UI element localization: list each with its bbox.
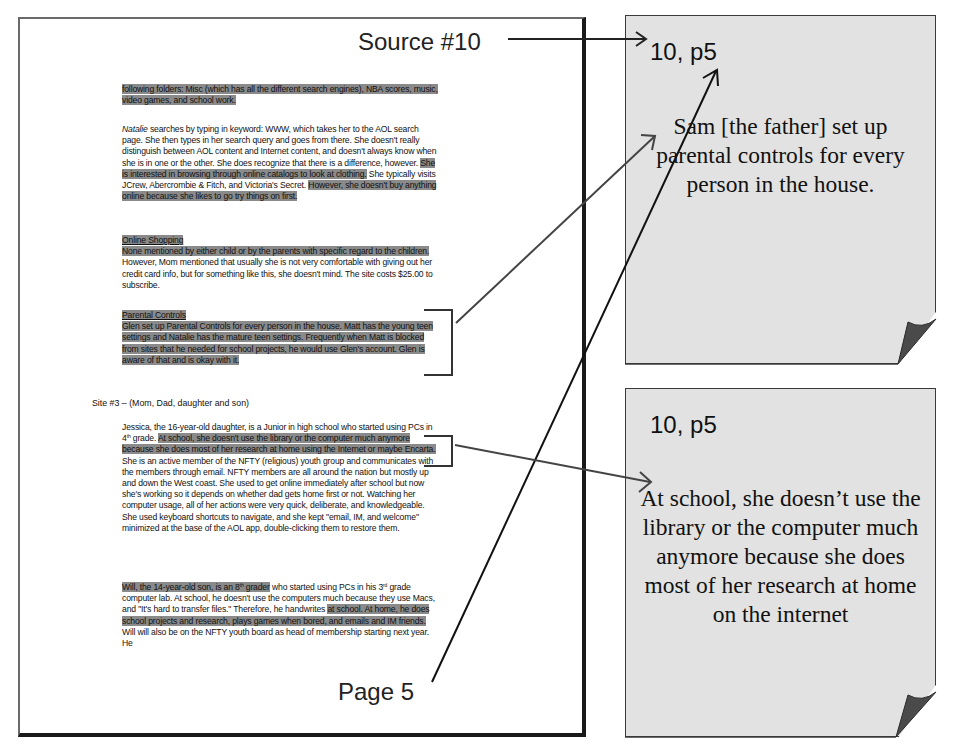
heading-online-shopping: Online Shopping [122, 235, 183, 245]
will-text-1: who started using PCs in his 3 [270, 582, 383, 592]
site-3-heading: Site #3 – (Mom, Dad, daughter and son) [92, 398, 249, 408]
heading-parental-controls: Parental Controls [122, 310, 186, 320]
page-label: Page 5 [338, 678, 414, 706]
doc-section-online-shopping: Online Shopping None mentioned by either… [122, 235, 440, 291]
doc-paragraph-jessica: Jessica, the 16-year-old daughter, is a … [122, 422, 440, 534]
sticky-note-school-research: 10, p5 At school, she doesn’t use the li… [625, 388, 936, 737]
doc-paragraph-will: Will, the 14-year-old son, is an 8th gra… [122, 582, 440, 649]
highlight-school-library: At school, she doesn't use the library o… [122, 433, 436, 454]
natalie-text-1: searches by typing in keyword: WWW, whic… [122, 124, 436, 168]
highlight-folders: following folders: Misc (which has all t… [122, 84, 438, 105]
doc-paragraph-folders: following folders: Misc (which has all t… [122, 84, 440, 106]
note-quote: Sam [the father] set up parental control… [636, 112, 925, 199]
sticky-note-parental-controls: 10, p5 Sam [the father] set up parental … [625, 15, 936, 364]
jessica-text-3: She is an active member of the NFTY (rel… [122, 456, 433, 533]
natalie-name: Natalie [122, 124, 148, 134]
will-text-3: Will will also be on the NFTY youth boar… [122, 627, 429, 648]
highlight-parental-controls: Glen set up Parental Controls for every … [122, 321, 433, 365]
jessica-text-2: grade. [131, 433, 158, 443]
will-hl-text-b: grader [244, 582, 270, 592]
highlight-will-intro: Will, the 14-year-old son, is an 8th gra… [122, 582, 270, 592]
doc-section-parental-controls: Parental Controls Glen set up Parental C… [122, 310, 440, 366]
highlight-none-mentioned: None mentioned by either child or by the… [122, 246, 429, 256]
note-reference: 10, p5 [650, 411, 717, 439]
source-label: Source #10 [358, 28, 481, 56]
doc-paragraph-natalie: Natalie searches by typing in keyword: W… [122, 124, 440, 202]
will-hl-text: Will, the 14-year-old son, is an 8 [122, 582, 240, 592]
online-shopping-text: However, Mom mentioned that usually she … [122, 257, 433, 289]
note-reference: 10, p5 [650, 38, 717, 66]
note-quote: At school, she doesn’t use the library o… [636, 484, 925, 629]
